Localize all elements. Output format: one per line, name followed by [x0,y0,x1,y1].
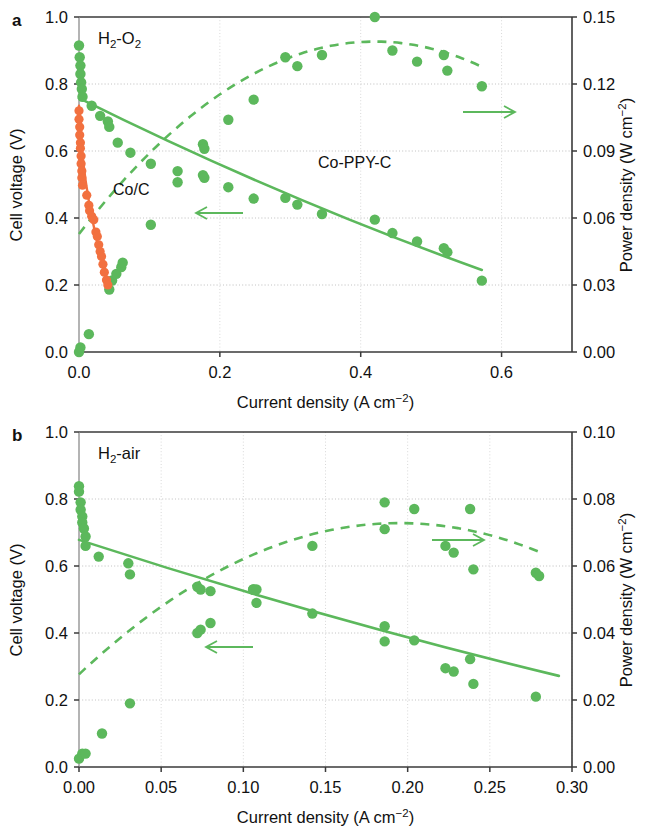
x-axis-title: Current density (A cm−2) [237,807,414,826]
panel-a-canvas: 0.00.20.40.60.00.20.40.60.81.00.000.030.… [0,0,651,415]
y-right-tick-label: 0.12 [583,75,615,93]
y-left-tick-label: 0.4 [45,624,68,642]
data-point [125,698,135,708]
data-point [172,166,182,176]
data-point [123,558,133,568]
x-tick-label: 0.30 [556,778,588,796]
data-point [77,92,87,102]
panel-b-canvas: 0.000.050.100.150.200.250.300.00.20.40.6… [0,415,651,830]
data-point [477,81,487,91]
data-point [292,199,302,209]
data-point [113,137,123,147]
y-right-tick-label: 0.06 [583,557,615,575]
y-right-tick-label: 0.04 [583,624,615,642]
x-tick-label: 0.6 [490,363,513,381]
data-point [75,122,84,131]
x-axis-title: Current density (A cm−2) [237,392,414,411]
data-point [468,564,478,574]
condition-label: H2-O2 [98,29,141,50]
data-point [292,61,302,71]
data-point [74,106,83,115]
data-point [448,666,458,676]
data-point [86,101,96,111]
data-point [477,275,487,285]
gridlines [79,432,572,767]
data-point [468,679,478,689]
data-point [465,504,475,514]
data-point [75,342,85,352]
trend-line [79,540,559,676]
x-tick-label: 0.00 [63,778,95,796]
data-point [534,571,544,581]
x-tick-label: 0.2 [208,363,231,381]
panel-b-h2-air: 0.000.050.100.150.200.250.300.00.20.40.6… [0,415,651,830]
y-left-tick-label: 0.4 [45,209,68,227]
data-point [317,50,327,60]
data-point [195,624,205,634]
data-point [307,541,317,551]
data-point [195,584,205,594]
left-pointing-arrow [206,641,253,653]
x-tick-label: 0.4 [349,363,372,381]
x-tick-label: 0.20 [392,778,424,796]
data-point [442,65,452,75]
data-point [97,252,106,261]
data-point [248,193,258,203]
data-point [412,56,422,66]
data-point [379,621,389,631]
y-left-axis-title: Cell voltage (V) [7,129,25,242]
data-point [205,586,215,596]
data-point [223,182,233,192]
data-point [205,618,215,628]
data-point [223,115,233,125]
data-point [251,598,261,608]
data-point [379,497,389,507]
data-point [93,232,102,241]
y-right-tick-label: 0.00 [583,758,615,776]
data-point [199,144,209,154]
data-point [409,504,419,514]
axis-frame [79,432,572,767]
data-point [104,122,114,132]
data-point [80,541,90,551]
data-point [317,209,327,219]
y-right-axis-title: Power density (W cm−2) [616,98,635,273]
x-tick-label: 0.15 [309,778,341,796]
y-left-tick-label: 0.6 [45,557,68,575]
data-point [146,159,156,169]
y-left-tick-label: 0.0 [45,343,68,361]
y-left-tick-label: 0.0 [45,758,68,776]
y-right-axis-title: Power density (W cm−2) [616,513,635,688]
data-point [248,94,258,104]
data-point [387,228,397,238]
y-left-tick-label: 0.2 [45,276,68,294]
y-left-tick-label: 0.2 [45,691,68,709]
data-point [125,147,135,157]
y-left-tick-label: 1.0 [45,8,68,26]
data-point [307,608,317,618]
left-pointing-arrow [196,207,243,219]
data-point [199,173,209,183]
data-point [89,215,98,224]
data-point [379,636,389,646]
data-point [172,177,182,187]
data-point [439,50,449,60]
data-point [442,247,452,257]
right-pointing-arrow [463,106,515,118]
data-point [94,551,104,561]
data-point [412,236,422,246]
data-point [251,584,261,594]
series-label-co-c: Co/C [113,181,149,198]
data-point [448,547,458,557]
axis-frame [79,17,572,352]
data-point [74,486,84,496]
y-right-tick-label: 0.08 [583,490,615,508]
y-left-tick-label: 1.0 [45,423,68,441]
data-point [80,531,90,541]
gridlines [79,17,572,352]
data-point [387,45,397,55]
series-2 [74,106,112,290]
panel-letter: b [12,426,22,445]
data-point [465,654,475,664]
right-pointing-arrow [432,534,484,546]
